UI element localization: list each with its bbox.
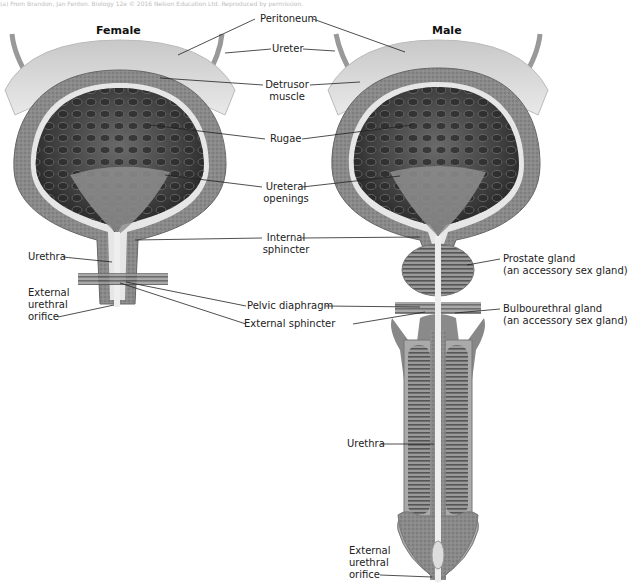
label-ext-f-line1: External: [28, 287, 70, 299]
label-prostate-line2: (an accessory sex gland): [503, 265, 628, 277]
label-ureteral-line1: Ureteral: [262, 181, 310, 193]
label-bulbo-line1: Bulbourethral gland: [503, 303, 628, 315]
label-urethra-male: Urethra: [347, 438, 385, 450]
label-internal-line1: Internal: [262, 232, 310, 244]
female-title: Female: [96, 24, 141, 37]
label-pelvic-diaphragm: Pelvic diaphragm: [247, 300, 333, 312]
label-detrusor-muscle: Detrusor muscle: [263, 79, 311, 103]
label-ureteral-line2: openings: [262, 193, 310, 205]
male-title: Male: [432, 24, 462, 37]
label-ureteral-openings: Ureteral openings: [262, 181, 310, 205]
label-prostate-line1: Prostate gland: [503, 253, 628, 265]
label-external-urethral-orifice-female: External urethral orifice: [28, 287, 70, 323]
label-ext-f-line3: orifice: [28, 311, 70, 323]
label-ext-f-line2: urethral: [28, 299, 70, 311]
label-bulbo-line2: (an accessory sex gland): [503, 315, 628, 327]
label-external-urethral-orifice-male: External urethral orifice: [349, 545, 391, 581]
label-bulbourethral-gland: Bulbourethral gland (an accessory sex gl…: [503, 303, 628, 327]
female-bladder: [5, 34, 235, 307]
label-detrusor-line2: muscle: [263, 91, 311, 103]
label-rugae: Rugae: [270, 133, 301, 145]
label-ext-m-line3: orifice: [349, 569, 391, 581]
label-internal-sphincter: Internal sphincter: [262, 232, 310, 256]
label-ureter: Ureter: [272, 43, 304, 55]
label-external-sphincter: External sphincter: [244, 318, 335, 330]
label-detrusor-line1: Detrusor: [263, 79, 311, 91]
label-peritoneum: Peritoneum: [260, 13, 317, 25]
label-prostate-gland: Prostate gland (an accessory sex gland): [503, 253, 628, 277]
label-ext-m-line1: External: [349, 545, 391, 557]
label-ext-m-line2: urethral: [349, 557, 391, 569]
label-urethra-female: Urethra: [28, 251, 66, 263]
label-internal-line2: sphincter: [262, 244, 310, 256]
